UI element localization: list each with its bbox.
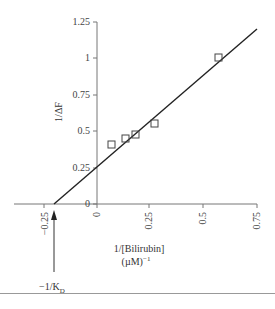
y-ticks: 1.25 1 0.75 0.5 0.25 0: [73, 16, 98, 209]
y-tick-label: 1: [85, 52, 90, 63]
x-axis-label-line1: 1/[Bilirubin]: [114, 243, 165, 254]
y-tick-label: 0.75: [73, 89, 91, 100]
x-axis-label-line2: (µM)−1: [122, 255, 151, 268]
data-point: [108, 141, 115, 148]
y-axis-label: 1/ΔF: [53, 102, 64, 122]
data-points: [108, 54, 222, 148]
y-tick-label: 0.25: [73, 162, 91, 173]
x-tick-label: 0.25: [143, 212, 154, 230]
lineweaver-burk-chart: 1.25 1 0.75 0.5 0.25 0 −0.25 0 0.25 0.5 …: [0, 0, 275, 309]
kd-arrow: [51, 210, 57, 272]
x-tick-label: 0.75: [251, 212, 262, 230]
data-point: [151, 120, 158, 127]
y-tick-label: 0.5: [78, 125, 91, 136]
y-tick-label: 1.25: [73, 16, 91, 27]
x-tick-label: 0: [91, 212, 102, 217]
x-ticks: −0.25 0 0.25 0.5 0.75: [39, 204, 262, 235]
y-tick-label: 0: [85, 198, 90, 209]
x-tick-label: −0.25: [39, 212, 50, 235]
x-tick-label: 0.5: [197, 212, 208, 225]
divider: [0, 293, 275, 294]
